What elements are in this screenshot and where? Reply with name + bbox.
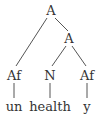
node-root-adjective: A [46, 4, 55, 17]
word-stem: health [29, 100, 71, 113]
word-suffix: y [83, 100, 90, 113]
node-noun: N [44, 69, 55, 82]
node-prefix-affix: Af [7, 69, 21, 82]
node-inner-adjective: A [64, 32, 73, 45]
node-suffix-affix: Af [80, 69, 94, 82]
word-prefix: un [6, 100, 23, 113]
